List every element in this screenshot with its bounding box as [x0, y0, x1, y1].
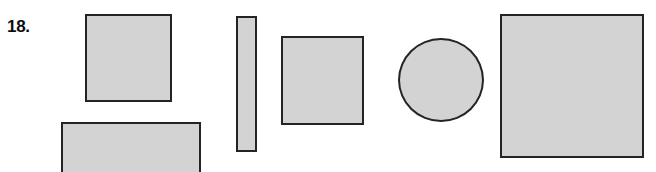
shape-square-large-left	[85, 14, 172, 102]
item-number-label: 18.	[7, 17, 30, 37]
shape-rectangle-wide-bottom	[61, 122, 201, 172]
shape-square-largest-right	[500, 14, 644, 158]
shape-rectangle-tall-narrow	[236, 16, 257, 152]
worksheet-figure: 18.	[0, 0, 656, 172]
shape-circle	[398, 38, 484, 122]
shape-square-medium	[281, 36, 364, 125]
